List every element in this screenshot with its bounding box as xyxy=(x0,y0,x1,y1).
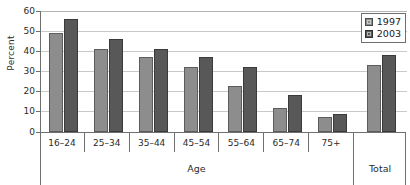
chart-title xyxy=(0,0,410,2)
bar-1997-35–44 xyxy=(139,57,153,132)
bar-chart: Percent 60 50 40 30 20 10 0 1997 2003 16… xyxy=(0,0,410,185)
x-axis-total-label: Total xyxy=(354,152,406,185)
bar-2003-35–44 xyxy=(154,49,168,132)
legend-swatch-icon-1997 xyxy=(365,18,373,26)
bar-2003-55–64 xyxy=(243,67,257,132)
bar-groups xyxy=(41,11,407,132)
y-tick-30: 30 xyxy=(13,67,35,76)
legend-label-2003: 2003 xyxy=(377,29,401,39)
bar-group-16-24 xyxy=(41,11,86,132)
y-tick-60: 60 xyxy=(13,7,35,16)
bar-1997-65–74 xyxy=(273,108,287,132)
bar-group-45-54 xyxy=(176,11,221,132)
bar-group-65-74 xyxy=(265,11,310,132)
bar-1997-75+ xyxy=(318,117,332,132)
bar-2003-25–34 xyxy=(109,39,123,132)
legend-swatch-icon-2003 xyxy=(365,30,373,38)
legend-item-1997[interactable]: 1997 xyxy=(365,16,401,28)
category-label-total-spacer xyxy=(354,133,406,152)
bar-1997-25–34 xyxy=(94,49,108,132)
y-tick-0: 0 xyxy=(13,128,35,137)
category-label-75-plus: 75+ xyxy=(309,133,354,152)
category-label-16-24: 16–24 xyxy=(40,133,85,152)
bar-2003-16–24 xyxy=(64,19,78,132)
legend-label-1997: 1997 xyxy=(377,17,401,27)
y-tick-40: 40 xyxy=(13,47,35,56)
category-label-65-74: 65–74 xyxy=(264,133,309,152)
bar-1997-16–24 xyxy=(49,33,63,132)
label-band-right-rule xyxy=(405,133,406,185)
y-tick-20: 20 xyxy=(13,87,35,96)
x-axis-group-label: Age xyxy=(40,152,354,185)
bar-2003-65–74 xyxy=(288,95,302,132)
bar-2003-total xyxy=(382,55,396,132)
legend-item-2003[interactable]: 2003 xyxy=(365,28,401,40)
bar-2003-45–54 xyxy=(199,57,213,132)
bar-group-25-34 xyxy=(86,11,131,132)
axis-caption-band: Age Total xyxy=(40,152,406,185)
y-tick-50: 50 xyxy=(13,27,35,36)
category-label-35-44: 35–44 xyxy=(130,133,175,152)
bar-1997-55–64 xyxy=(228,86,242,132)
category-label-45-54: 45–54 xyxy=(175,133,220,152)
bar-group-55-64 xyxy=(220,11,265,132)
label-band-left-rule xyxy=(40,133,41,185)
legend: 1997 2003 xyxy=(361,13,406,43)
bar-1997-45–54 xyxy=(184,67,198,132)
bar-2003-75+ xyxy=(333,114,347,132)
bar-group-35-44 xyxy=(131,11,176,132)
y-tick-10: 10 xyxy=(13,107,35,116)
category-label-25-34: 25–34 xyxy=(85,133,130,152)
category-label-55-64: 55–64 xyxy=(219,133,264,152)
category-label-band: 16–24 25–34 35–44 45–54 55–64 65–74 75+ xyxy=(40,133,406,152)
plot-area xyxy=(40,11,406,133)
bar-group-75+ xyxy=(310,11,355,132)
bar-1997-total xyxy=(367,65,381,132)
